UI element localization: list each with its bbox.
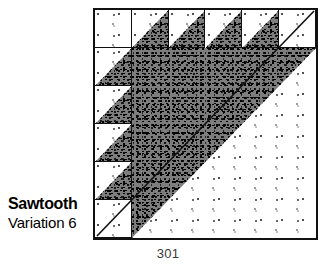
patch-half-square-triangle — [169, 10, 206, 48]
patch-plain-light-diagonal — [95, 200, 132, 238]
patch-plain-light — [95, 10, 132, 48]
block-name-label: Sawtooth — [8, 196, 92, 212]
patch-half-square-triangle — [95, 124, 132, 162]
block-caption: Sawtooth Variation 6 — [8, 196, 92, 230]
patch-half-square-triangle — [132, 10, 169, 48]
patch-light-fill — [95, 10, 132, 48]
patch-half-square-triangle — [95, 86, 132, 124]
patch-grid — [95, 10, 316, 238]
patch-light-fill — [95, 200, 132, 238]
quilt-block-figure: Sawtooth Variation 6 301 — [0, 0, 336, 273]
patch-half-square-triangle — [242, 10, 279, 48]
patch-half-square-triangle — [95, 48, 132, 86]
patch-light-fill — [279, 10, 316, 48]
patch-plain-light-diagonal — [279, 10, 316, 48]
quilt-block-diagram — [93, 8, 318, 240]
block-variation-label: Variation 6 — [8, 215, 92, 230]
page-number: 301 — [0, 246, 336, 261]
patch-half-square-triangle — [206, 10, 243, 48]
patch-half-square-triangle — [95, 162, 132, 200]
